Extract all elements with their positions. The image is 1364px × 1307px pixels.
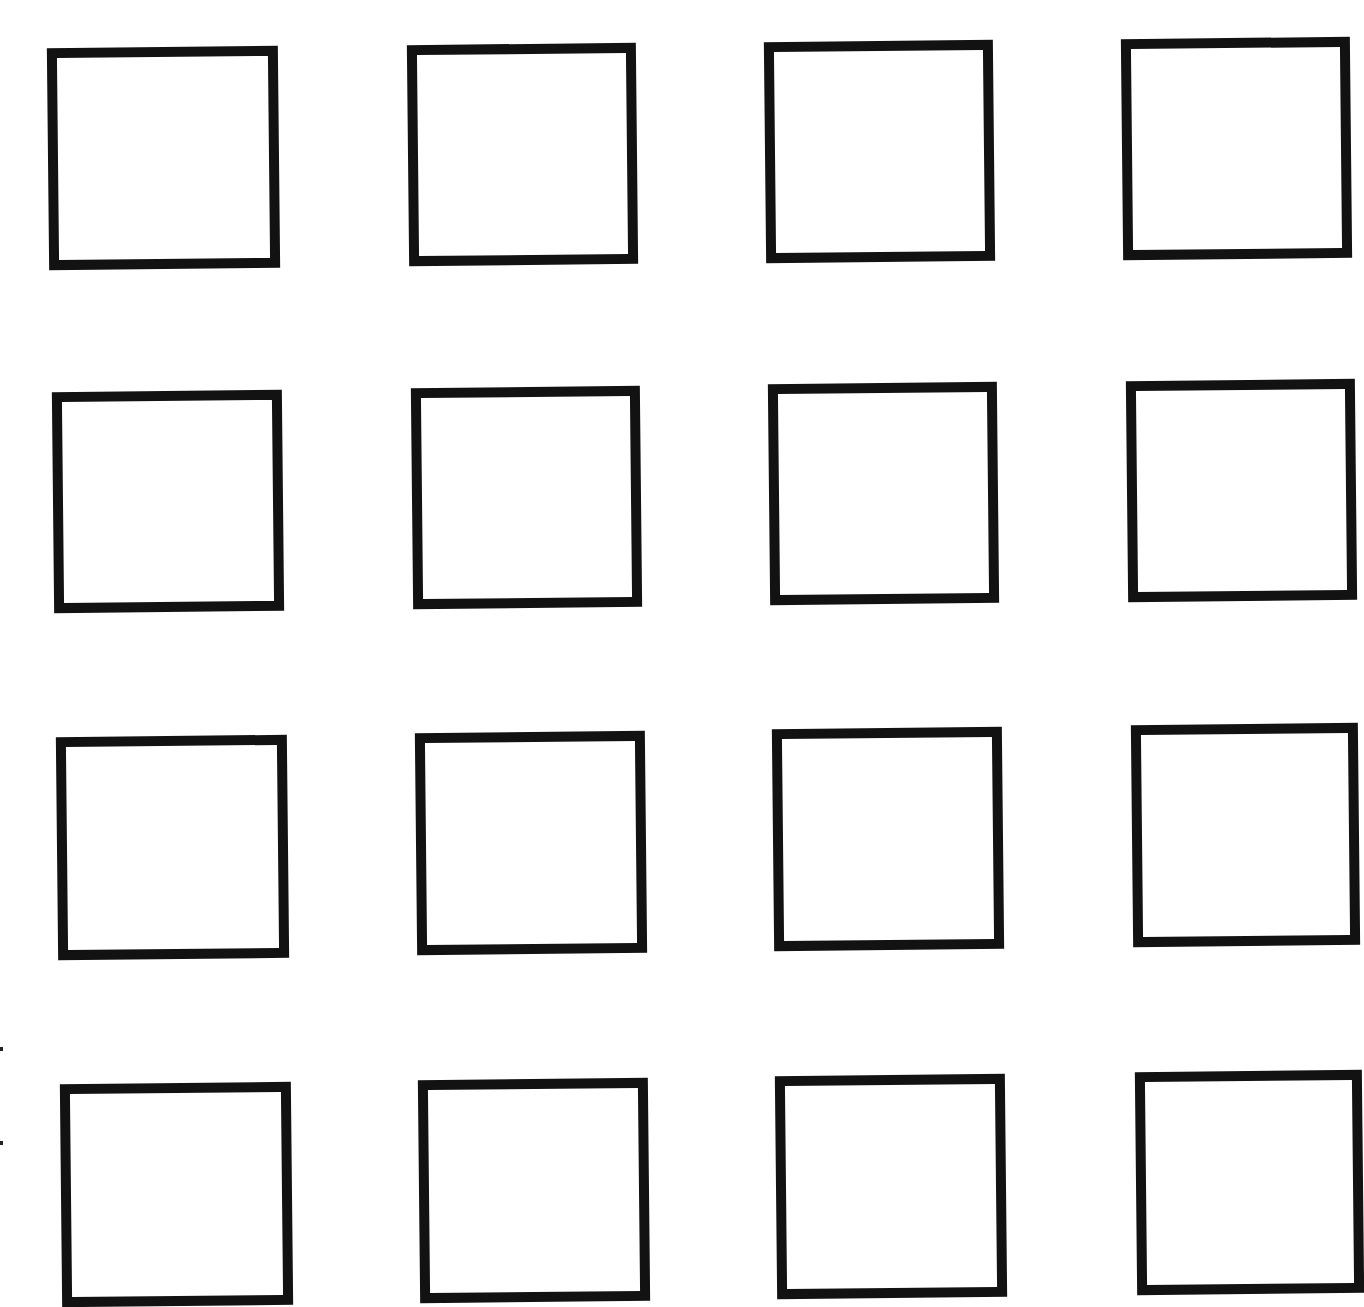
empty-square-box	[407, 43, 638, 266]
margin-mark	[0, 1047, 3, 1051]
empty-square-box	[60, 1082, 293, 1307]
empty-square-box	[415, 731, 647, 955]
empty-square-box	[775, 1074, 1007, 1299]
empty-square-box	[56, 735, 289, 960]
empty-square-box	[768, 382, 999, 605]
empty-square-box	[418, 1078, 650, 1303]
empty-square-box	[47, 46, 280, 270]
empty-square-box	[52, 390, 284, 613]
empty-square-box	[411, 386, 642, 609]
empty-square-box	[1131, 723, 1360, 947]
empty-square-box	[1121, 37, 1352, 260]
empty-square-box	[1135, 1070, 1364, 1295]
empty-square-box	[1126, 379, 1357, 602]
margin-mark	[0, 1141, 3, 1145]
empty-square-box	[772, 727, 1004, 951]
empty-square-box	[764, 40, 995, 263]
